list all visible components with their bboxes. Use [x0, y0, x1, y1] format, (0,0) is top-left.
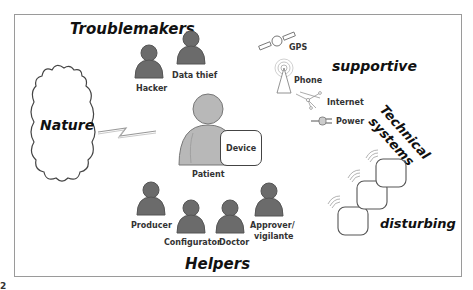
plug-icon [311, 116, 333, 126]
doctor-label: Doctor [219, 238, 249, 247]
data-thief-label: Data thief [172, 71, 217, 80]
person-icon-hacker [133, 44, 165, 80]
vigilante-label: vigilante [254, 232, 294, 241]
helpers-heading: Helpers [185, 255, 250, 273]
person-icon-doctor [214, 199, 246, 235]
lightning-icon [98, 122, 158, 142]
disturbing-heading: disturbing [380, 216, 456, 231]
producer-label: Producer [131, 221, 172, 230]
person-icon-configurator [175, 199, 207, 235]
hacker-label: Hacker [136, 84, 167, 93]
phone-label: Phone [294, 76, 322, 85]
patient-label: Patient [192, 170, 225, 179]
network-icon [294, 90, 324, 110]
footer-fragment: 2 [0, 281, 6, 290]
power-label: Power [336, 117, 364, 126]
approver-label: Approver/ [250, 221, 295, 230]
person-icon-data-thief [175, 30, 207, 66]
configurator-label: Configurator [164, 238, 221, 247]
antenna-icon [273, 58, 295, 94]
gps-label: GPS [289, 43, 307, 52]
internet-label: Internet [327, 98, 364, 107]
supportive-heading: supportive [332, 58, 417, 74]
person-icon-approver [253, 182, 285, 218]
nature-label: Nature [40, 117, 94, 133]
person-icon-producer [135, 181, 167, 217]
device-label: Device [226, 144, 256, 153]
